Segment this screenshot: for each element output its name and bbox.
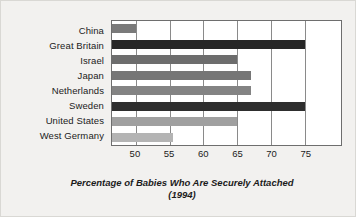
x-axis-tick-label: 60 [198,148,209,159]
bar-row [112,114,341,130]
bar [112,102,305,111]
bar [112,133,173,142]
bar-row [112,130,341,146]
x-axis-tick-label: 70 [266,148,277,159]
x-axis-title: Percentage of Babies Who Are Securely At… [19,177,345,201]
category-label: United States [5,113,109,128]
x-axis-tick-label: 75 [300,148,311,159]
bar [112,40,305,49]
bars-group [112,21,341,145]
bar-row [112,83,341,99]
category-label: Netherlands [5,83,109,98]
bar-row [112,99,341,115]
category-label: Great Britain [5,38,109,53]
bar [112,24,136,33]
bar-row [112,21,341,37]
category-label: Israel [5,53,109,68]
x-axis-tick-label: 55 [164,148,175,159]
bar [112,55,237,64]
category-label: China [5,23,109,38]
plot-area [111,20,342,146]
bar-row [112,52,341,68]
x-axis-tick-label: 65 [232,148,243,159]
bar-row [112,37,341,53]
x-axis-title-line-1: Percentage of Babies Who Are Securely At… [19,177,345,189]
category-label: Sweden [5,98,109,113]
bar-row [112,68,341,84]
category-label: Japan [5,68,109,83]
category-labels: China Great Britain Israel Japan Netherl… [5,23,109,143]
bar [112,86,251,95]
x-axis-tick-label: 50 [130,148,141,159]
category-label: West Germany [5,128,109,143]
x-axis-tick-labels: 505560657075 [111,148,342,162]
bar [112,71,251,80]
bar [112,117,237,126]
x-axis-title-line-2: (1994) [19,189,345,201]
chart-figure: China Great Britain Israel Japan Netherl… [0,0,356,217]
